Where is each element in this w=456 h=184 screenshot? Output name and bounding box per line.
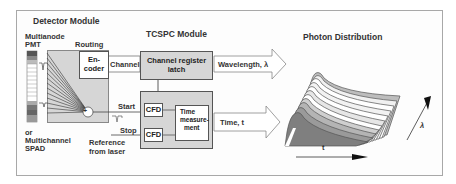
photon-distribution-title: Photon Distribution <box>303 32 382 42</box>
cfd-connectors <box>0 0 456 184</box>
wavelength-output-label: Wavelength, λ <box>218 60 268 69</box>
time-axis-label: t <box>322 143 325 152</box>
wavelength-axis-label: λ <box>420 121 424 130</box>
time-output-label: Time, t <box>220 118 244 127</box>
